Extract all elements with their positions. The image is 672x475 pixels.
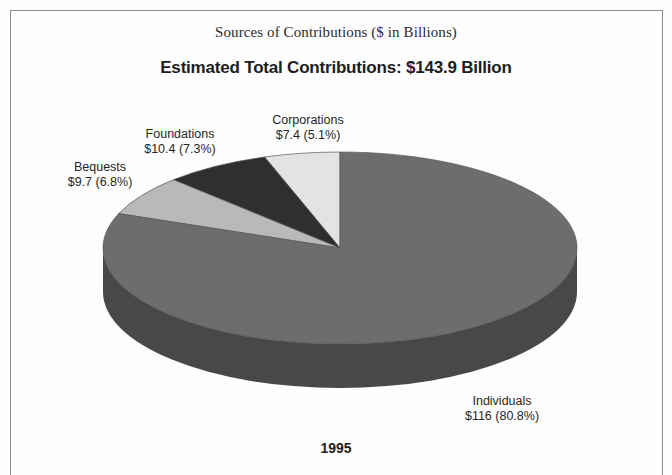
slice-label-individuals: Individuals $116 (80.8%) [422,394,582,424]
slice-label-bequests-value: $9.7 (6.8%) [30,175,170,190]
slice-label-foundations-name: Foundations [100,127,260,142]
slice-label-foundations: Foundations $10.4 (7.3%) [100,127,260,157]
slice-label-individuals-name: Individuals [422,394,582,409]
slice-label-corporations-name: Corporations [228,113,388,128]
slice-label-bequests: Bequests $9.7 (6.8%) [30,160,170,190]
year-label: 1995 [0,440,672,456]
slice-label-foundations-value: $10.4 (7.3%) [100,142,260,157]
pie-top-faces [103,152,577,344]
chart-page: Sources of Contributions ($ in Billions)… [0,0,672,475]
slice-label-individuals-value: $116 (80.8%) [422,409,582,424]
slice-label-bequests-name: Bequests [30,160,170,175]
